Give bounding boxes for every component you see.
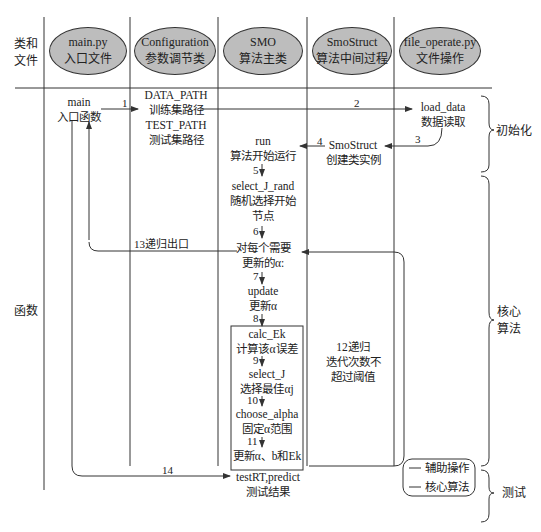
node-desc: 选择最佳αj: [232, 382, 302, 397]
column-name: main.py: [69, 34, 108, 51]
node-select-j-rand: select_J_rand 随机选择开始 节点: [228, 179, 298, 224]
node-desc: 计算该α误差: [232, 342, 302, 357]
legend-aux: 辅助操作: [425, 461, 469, 475]
node-name: calc_Ek: [232, 327, 302, 342]
node-desc: 固定α范围: [232, 422, 302, 437]
edge-label-3: 3: [415, 132, 421, 146]
node-line: TEST_PATH: [136, 118, 216, 133]
node-select-j: select_J 选择最佳αj: [232, 367, 302, 397]
edge-label-2: 2: [354, 96, 360, 110]
node-for-each: 对每个需要 更新的α:: [232, 241, 294, 271]
node-name: run: [228, 134, 298, 149]
edge-label-10: 10: [247, 393, 258, 407]
edge-label-1: 1: [122, 96, 128, 110]
column-desc: 算法中间过程: [316, 51, 388, 68]
node-name: update: [232, 284, 294, 299]
edge-label-13: 13递归出口: [134, 237, 189, 251]
node-name: select_J_rand: [228, 179, 298, 194]
edge-label-8: 8: [253, 311, 259, 325]
edge-label-line: 12递归: [318, 340, 388, 355]
column-desc: 算法主类: [239, 51, 287, 68]
column-desc: 入口文件: [64, 51, 112, 68]
edge-label-4: 4: [317, 134, 323, 148]
edge-label-5: 5: [253, 163, 259, 177]
node-update: update 更新α: [232, 284, 294, 314]
node-main: main 入口函数: [56, 95, 102, 125]
row-header-line2: 文件: [14, 53, 38, 70]
node-calc-ek: calc_Ek 计算该α误差: [232, 327, 302, 357]
node-update-all: 更新α、b和Ek: [232, 449, 302, 464]
row-header-functions: 函数: [14, 303, 38, 320]
edge-label-11: 11: [247, 434, 258, 448]
edge-label-14: 14: [162, 463, 173, 477]
node-desc: 节点: [228, 209, 298, 224]
column-file-operate: file_operate.py 文件操作: [399, 27, 481, 75]
node-name: testRT,predict: [226, 470, 310, 485]
row-header-classes: 类和 文件: [14, 36, 38, 70]
node-desc: 创建类实例: [325, 153, 381, 168]
column-desc: 文件操作: [416, 51, 464, 68]
column-name: SmoStruct: [327, 34, 378, 51]
row-header-line1: 类和: [14, 36, 38, 53]
node-line: 测试集路径: [136, 133, 216, 148]
node-desc: 测试结果: [226, 485, 310, 500]
node-name: choose_alpha: [232, 407, 302, 422]
node-choose-alpha: choose_alpha 固定α范围: [232, 407, 302, 437]
node-desc: 算法开始运行: [228, 149, 298, 164]
column-name: SMO: [250, 34, 276, 51]
node-smostruct: SmoStruct 创建类实例: [325, 138, 381, 168]
column-smo: SMO 算法主类: [223, 27, 303, 75]
phase-test: 测试: [502, 485, 526, 502]
column-desc: 参数调节类: [145, 51, 205, 68]
node-desc: 更新α: [232, 299, 294, 314]
column-smostruct: SmoStruct 算法中间过程: [312, 27, 392, 75]
edge-label-12: 12递归 迭代次数不 超过阈值: [318, 340, 388, 385]
legend-core: 核心算法: [425, 480, 469, 494]
node-config: DATA_PATH 训练集路径 TEST_PATH 测试集路径: [136, 88, 216, 148]
column-name: Configuration: [141, 34, 208, 51]
node-line: 训练集路径: [136, 103, 216, 118]
column-main-py: main.py 入口文件: [49, 27, 127, 75]
node-desc: 数据读取: [413, 115, 473, 130]
phase-line: 核心: [497, 304, 521, 321]
phase-line: 算法: [497, 321, 521, 338]
column-configuration: Configuration 参数调节类: [134, 27, 216, 75]
edge-label-6: 6: [253, 224, 259, 238]
node-line: DATA_PATH: [136, 88, 216, 103]
column-name: file_operate.py: [404, 34, 476, 51]
node-name: SmoStruct: [325, 138, 381, 153]
node-desc: 入口函数: [56, 110, 102, 125]
phase-init: 初始化: [496, 123, 532, 140]
node-test: testRT,predict 测试结果: [226, 470, 310, 500]
edge-label-line: 迭代次数不: [318, 355, 388, 370]
node-load-data: load_data 数据读取: [413, 100, 473, 130]
node-run: run 算法开始运行: [228, 134, 298, 164]
node-name: select_J: [232, 367, 302, 382]
node-name: load_data: [413, 100, 473, 115]
edge-label-line: 超过阈值: [318, 370, 388, 385]
phase-core: 核心 算法: [497, 304, 521, 338]
node-name: main: [56, 95, 102, 110]
edge-label-7: 7: [253, 269, 259, 283]
node-desc: 随机选择开始: [228, 194, 298, 209]
edge-label-9: 9: [253, 353, 259, 367]
node-line: 对每个需要: [232, 241, 294, 256]
node-line: 更新的α:: [232, 256, 294, 271]
